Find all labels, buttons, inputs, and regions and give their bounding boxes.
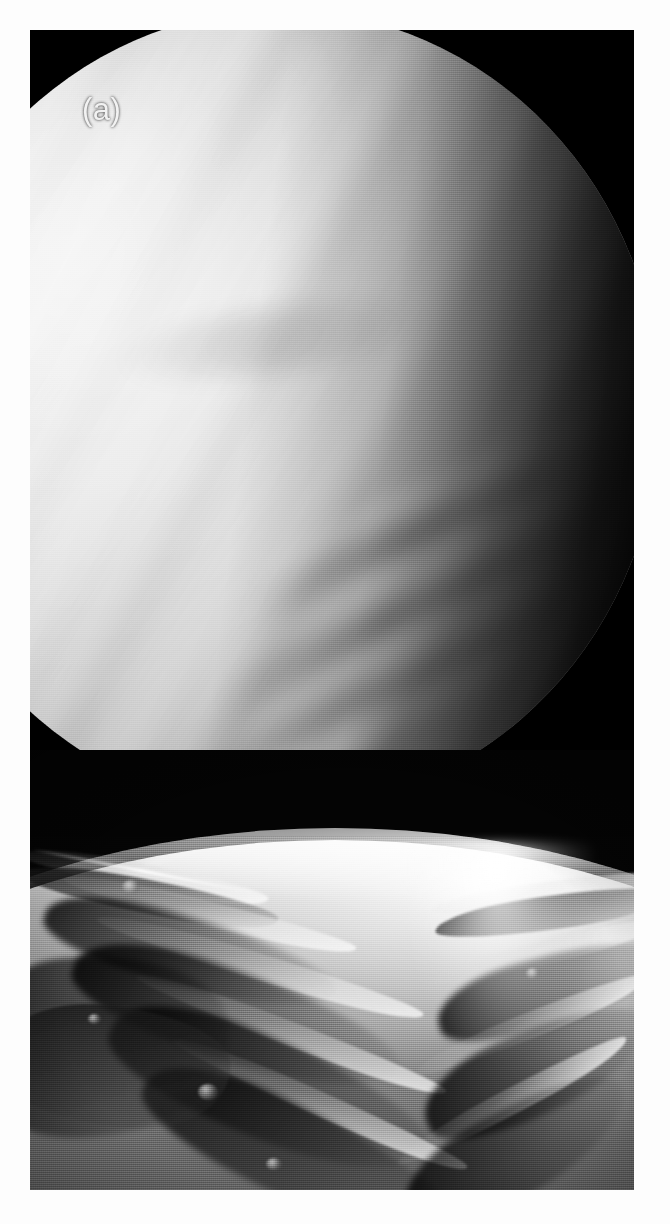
figure-root: (a)	[0, 0, 670, 1224]
panel-label-a: (a)	[82, 92, 121, 128]
crater-4	[88, 1014, 101, 1024]
rift-valley-terrain	[30, 836, 634, 1190]
crater-5	[526, 968, 540, 979]
panel-a-venus-globe: (a)	[30, 30, 634, 750]
panel-a-canvas	[30, 30, 634, 750]
crater-2	[198, 1084, 218, 1100]
venus-terminator-shading	[30, 30, 634, 750]
panel-b-canvas	[30, 750, 634, 1190]
crater-1	[122, 880, 140, 894]
crater-3	[266, 1158, 282, 1170]
panel-b-surface-limb: (b)	[30, 750, 634, 1190]
